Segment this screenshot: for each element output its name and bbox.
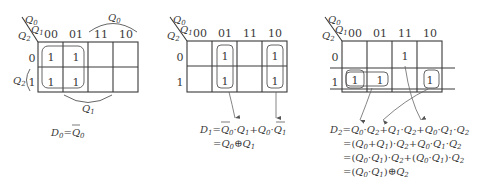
cell-r0-c0: 1 — [48, 51, 55, 64]
equation-d1-line2: =Q0⊕Q1 — [213, 138, 255, 151]
kmap-d0: Q0 Q1 Q2 00 01 11 10 0 1 1 1 1 1 Q0 Q2 — [13, 12, 138, 140]
col-header-01: 01 — [69, 28, 83, 41]
row-header-0: 0 — [29, 52, 36, 65]
corner-label-q2: Q2 — [18, 30, 31, 43]
cell-r0-c2: 1 — [402, 50, 409, 63]
row-header-0: 0 — [177, 51, 184, 64]
arrow-to-term-3 — [405, 66, 421, 120]
corner-label-q2: Q2 — [167, 30, 180, 43]
arrow-to-term-1 — [360, 88, 372, 120]
q1-arc — [64, 95, 112, 103]
equation-d2-line4: =(Q0·Q1)⊕Q2 — [343, 166, 409, 179]
col-header-11: 11 — [398, 27, 412, 40]
col-header-10: 10 — [119, 28, 133, 41]
col-header-01: 01 — [218, 27, 232, 40]
cell-r1-c1: 1 — [73, 76, 80, 89]
equation-d0: D0=Q0 — [50, 127, 85, 140]
karnaugh-maps-figure: Q0 Q1 Q2 00 01 11 10 0 1 1 1 1 1 Q0 Q2 — [0, 0, 481, 188]
col-header-10: 10 — [268, 27, 282, 40]
col-header-00: 00 — [193, 27, 207, 40]
equation-d1-line1: D1=Q0·Q1+Q0·Q1 — [199, 124, 286, 137]
kmap-d1: Q0 Q1 Q2 00 01 11 10 0 1 1 1 1 1 D1=Q0·Q… — [167, 14, 287, 151]
q0-arc-label: Q0 — [108, 12, 121, 25]
col-header-01: 01 — [373, 27, 387, 40]
cell-r1-c1: 1 — [222, 75, 229, 88]
cell-r1-c3: 1 — [272, 75, 279, 88]
equation-d2-line1: D2=Q0·Q2+Q1·Q2+Q0·Q1·Q2 — [329, 124, 470, 137]
col-header-10: 10 — [423, 27, 437, 40]
col-header-00: 00 — [44, 28, 58, 41]
col-header-00: 00 — [348, 27, 362, 40]
row-header-1: 1 — [332, 76, 339, 89]
equation-d2-line3: =(Q0·Q1)·Q2+(Q0·Q1)·Q2 — [343, 152, 465, 165]
equation-d2-line2: =(Q0+Q1)·Q2+Q0·Q1·Q2 — [343, 138, 462, 151]
row-header-1: 1 — [177, 76, 184, 89]
cell-r0-c1: 1 — [73, 51, 80, 64]
row-header-0: 0 — [332, 51, 339, 64]
cell-r1-c1: 1 — [377, 74, 384, 87]
arrow-to-term-1 — [229, 92, 235, 118]
corner-label-q1: Q1 — [335, 24, 348, 37]
row-header-1: 1 — [29, 76, 36, 89]
corner-label-q2: Q2 — [322, 30, 335, 43]
arrow-to-term-2 — [383, 89, 428, 120]
cell-r1-c3: 1 — [427, 74, 434, 87]
cell-r1-c0: 1 — [48, 76, 55, 89]
cell-r0-c1: 1 — [222, 50, 229, 63]
q2-bracket-label: Q2 — [13, 75, 26, 88]
col-header-11: 11 — [243, 27, 257, 40]
q1-arc-label: Q1 — [82, 103, 95, 116]
col-header-11: 11 — [94, 28, 108, 41]
cell-r0-c3: 1 — [272, 50, 279, 63]
kmap-d2: Q0 Q1 Q2 00 01 11 10 0 1 1 1 1 1 D2=Q0·Q… — [322, 14, 470, 179]
cell-r1-c0: 1 — [352, 74, 359, 87]
corner-label-q1: Q1 — [180, 24, 193, 37]
